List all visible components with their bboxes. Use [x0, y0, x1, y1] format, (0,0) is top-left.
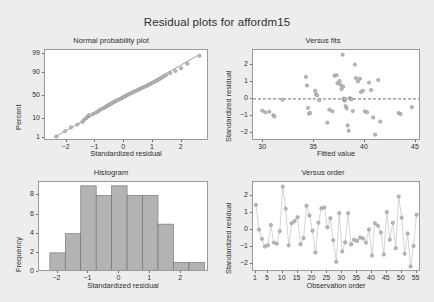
versus-order-data-point	[361, 237, 364, 240]
normal-probability-plot-y-tick-label: 1	[12, 133, 40, 140]
versus-fits-y-tickmark	[250, 98, 252, 99]
histogram-y-tick-label: 6	[6, 210, 34, 217]
versus-fits-title: Versus fits	[218, 36, 428, 45]
normal-probability-plot-xlabel: Standardized residual	[44, 149, 208, 158]
panel-versus-order: Versus order Standardized residual −2−10…	[218, 168, 428, 298]
versus-order-data-point	[257, 228, 260, 231]
versus-order-plot-area	[252, 181, 420, 271]
versus-order-data-point	[406, 232, 409, 235]
versus-order-data-point	[373, 222, 376, 225]
versus-fits-y-tick-label: 1	[220, 77, 248, 84]
versus-fits-data-point	[399, 112, 402, 115]
versus-order-data-point	[329, 216, 332, 219]
versus-fits-data-point	[326, 121, 329, 124]
versus-order-x-tickmark	[267, 271, 268, 273]
versus-order-y-tick-label: 0	[220, 225, 248, 232]
versus-fits-y-tick-label: 0	[220, 94, 248, 101]
versus-fits-y-tickmark	[250, 64, 252, 65]
versus-order-data-point	[326, 226, 329, 229]
versus-fits-data-point	[371, 116, 374, 119]
histogram-x-tick-label: 0	[104, 274, 132, 281]
versus-order-x-tickmark	[416, 271, 417, 273]
normal-probability-plot-y-tickmark	[42, 137, 44, 138]
histogram-x-tick-label: 1	[135, 274, 163, 281]
normal-probability-plot-y-tick-label: 10	[12, 114, 40, 121]
versus-fits-data-point	[317, 99, 320, 102]
versus-order-data-point	[335, 260, 338, 263]
versus-fits-data-point	[351, 109, 354, 112]
versus-order-svg	[253, 182, 420, 271]
versus-order-x-tickmark	[326, 271, 327, 273]
versus-fits-data-point	[346, 124, 349, 127]
versus-order-x-tickmark	[356, 271, 357, 273]
versus-order-data-point	[302, 236, 305, 239]
normal-probability-plot-y-tick-label: 90	[12, 68, 40, 75]
versus-fits-data-point	[347, 129, 350, 132]
versus-fits-data-point	[341, 53, 344, 56]
histogram-bar	[50, 253, 65, 271]
versus-fits-data-point	[379, 120, 382, 123]
versus-fits-data-point	[338, 79, 341, 82]
versus-order-data-point	[412, 244, 415, 247]
normal-probability-plot-y-tick-label: 50	[12, 91, 40, 98]
versus-order-data-point	[299, 243, 302, 246]
versus-fits-data-point	[331, 110, 334, 113]
histogram-bar	[96, 195, 111, 271]
normal-probability-plot-y-tickmark	[42, 118, 44, 119]
histogram-bar	[189, 262, 204, 271]
histogram-bar	[81, 186, 96, 271]
versus-order-xlabel: Observation order	[252, 281, 420, 290]
versus-fits-data-point	[268, 110, 271, 113]
versus-fits-data-point	[373, 133, 376, 136]
versus-order-connector-line	[256, 187, 417, 267]
versus-order-data-point	[397, 195, 400, 198]
versus-fits-y-tick-label: −2	[220, 128, 248, 135]
versus-fits-data-point	[335, 74, 338, 77]
normal-probability-plot-svg	[45, 50, 208, 140]
versus-order-data-point	[260, 237, 263, 240]
histogram-x-tickmark	[180, 271, 181, 273]
versus-order-data-point	[254, 203, 257, 206]
versus-order-data-point	[287, 244, 290, 247]
normal-probability-plot-y-tickmark	[42, 95, 44, 96]
versus-order-data-point	[266, 244, 269, 247]
versus-fits-data-point	[350, 98, 353, 101]
versus-order-y-tickmark	[250, 195, 252, 196]
normal-probability-data-point	[174, 69, 177, 72]
panel-histogram: Histogram Frequency 02468 −2−1012 Standa…	[8, 168, 214, 298]
normal-probability-data-point	[186, 62, 189, 65]
versus-order-x-tickmark	[401, 271, 402, 273]
histogram-x-tick-label: −1	[73, 274, 101, 281]
histogram-bar	[127, 195, 142, 271]
versus-fits-data-point	[315, 94, 318, 97]
versus-fits-data-point	[343, 97, 346, 100]
versus-order-data-point	[394, 247, 397, 250]
versus-order-data-point	[293, 219, 296, 222]
versus-order-x-tick-label: 55	[402, 274, 430, 281]
normal-probability-plot-area	[44, 49, 208, 140]
normal-probability-data-point	[69, 126, 72, 129]
versus-fits-data-point	[306, 106, 309, 109]
versus-order-data-point	[379, 231, 382, 234]
residual-plots-figure: Residual plots for affordm15 Normal prob…	[0, 0, 434, 302]
versus-order-y-tickmark	[250, 246, 252, 247]
versus-fits-y-tick-label: 2	[220, 60, 248, 67]
versus-order-x-tickmark	[371, 271, 372, 273]
versus-order-x-tickmark	[386, 271, 387, 273]
histogram-y-tickmark	[36, 214, 38, 215]
versus-order-data-point	[305, 204, 308, 207]
histogram-x-tickmark	[118, 271, 119, 273]
normal-probability-plot-x-tickmark	[123, 140, 124, 142]
versus-order-data-point	[323, 206, 326, 209]
histogram-bar	[112, 186, 127, 271]
versus-order-data-point	[388, 238, 391, 241]
normal-probability-data-point	[76, 123, 79, 126]
normal-probability-data-point	[63, 129, 66, 132]
versus-fits-svg	[253, 50, 420, 140]
versus-order-data-point	[391, 221, 394, 224]
versus-order-y-tick-label: 1	[220, 208, 248, 215]
versus-fits-y-tickmark	[250, 81, 252, 82]
versus-order-data-point	[403, 252, 406, 255]
normal-probability-data-point	[198, 54, 201, 57]
histogram-y-tickmark	[36, 233, 38, 234]
